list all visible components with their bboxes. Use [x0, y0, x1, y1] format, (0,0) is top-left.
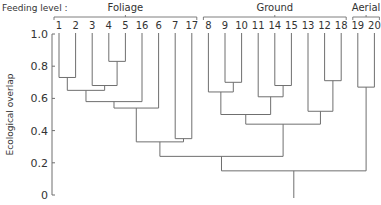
group-label-aerial: Aerial [352, 2, 381, 13]
leaf-label: 2 [72, 20, 78, 31]
leaf-label: 16 [136, 20, 149, 31]
y-tick-label: 0.4 [31, 125, 49, 138]
y-tick-label: 1.0 [31, 28, 49, 41]
leaf-label: 4 [106, 20, 112, 31]
y-axis: 00.20.40.60.81.0Ecological overlap [5, 28, 55, 202]
leaf-label: 5 [122, 20, 128, 31]
group-label-ground: Ground [256, 2, 293, 13]
dendrogram-chart: 00.20.40.60.81.0Ecological overlap Feedi… [0, 0, 381, 205]
leaf-label: 1 [56, 20, 62, 31]
leaf-label: 19 [351, 20, 364, 31]
y-tick-label: 0.2 [31, 157, 49, 170]
leaf-label: 18 [335, 20, 348, 31]
leaf-label: 12 [318, 20, 331, 31]
y-tick-label: 0.6 [31, 92, 49, 105]
leaf-label: 8 [205, 20, 211, 31]
leaf-label: 15 [285, 20, 298, 31]
leaf-label: 3 [89, 20, 95, 31]
leaf-label: 9 [222, 20, 228, 31]
leaf-label: 6 [155, 20, 161, 31]
leaf-label: 14 [268, 20, 281, 31]
leaf-label: 13 [302, 20, 315, 31]
leaf-label: 17 [185, 20, 198, 31]
leaf-label: 10 [235, 20, 248, 31]
leaf-label: 7 [172, 20, 178, 31]
leaf-labels: 1234516671789101114151312181920 [56, 20, 381, 31]
feeding-level-header: Feeding level :FoliageGroundAerial [2, 2, 380, 20]
dendrogram-tree [59, 33, 374, 198]
y-tick-label: 0 [41, 189, 48, 202]
group-label-foliage: Foliage [108, 2, 144, 13]
feeding-level-label: Feeding level : [2, 3, 68, 13]
y-tick-label: 0.8 [31, 60, 49, 73]
leaf-label: 20 [368, 20, 381, 31]
leaf-label: 11 [252, 20, 265, 31]
y-axis-label: Ecological overlap [5, 73, 15, 155]
